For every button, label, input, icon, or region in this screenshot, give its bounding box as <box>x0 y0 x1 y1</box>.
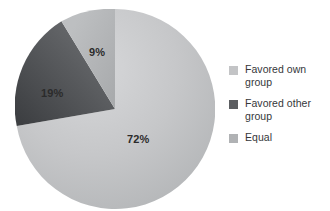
legend: Favored own group Favored other group Eq… <box>229 63 327 153</box>
legend-swatch-icon-equal <box>229 134 238 143</box>
pie-chart-figure: 9% 19% 72% Favored own group Favored oth… <box>0 0 330 211</box>
legend-label-favored-other-group: Favored other group <box>245 97 327 122</box>
legend-item-favored-other-group: Favored other group <box>229 97 327 122</box>
legend-item-favored-own-group: Favored own group <box>229 63 327 88</box>
legend-label-equal: Equal <box>245 131 272 144</box>
pie-label-equal: 9% <box>89 46 105 58</box>
legend-swatch-icon-favored-other-group <box>229 100 238 109</box>
pie-label-favored-other-group: 19% <box>41 87 63 99</box>
pie-svg <box>15 9 215 209</box>
pie-label-favored-own-group: 72% <box>127 133 149 145</box>
pie-chart-graphic: 9% 19% 72% <box>15 9 215 209</box>
legend-swatch-icon-favored-own-group <box>229 66 238 75</box>
legend-item-equal: Equal <box>229 131 327 144</box>
legend-label-favored-own-group: Favored own group <box>245 63 327 88</box>
